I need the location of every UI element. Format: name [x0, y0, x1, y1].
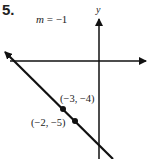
point-2 [72, 118, 78, 124]
slope-value: = −1 [44, 13, 67, 25]
slope-var: m [36, 13, 44, 25]
graph [0, 0, 151, 159]
slope-label: m = −1 [36, 13, 67, 25]
point-1 [60, 106, 66, 112]
point-2-label: (−2, −5) [31, 117, 66, 128]
point-1-label: (−3, −4) [60, 93, 95, 104]
problem-number: 5. [2, 1, 15, 18]
graph-line [5, 52, 113, 159]
y-axis-label: y [96, 4, 100, 15]
